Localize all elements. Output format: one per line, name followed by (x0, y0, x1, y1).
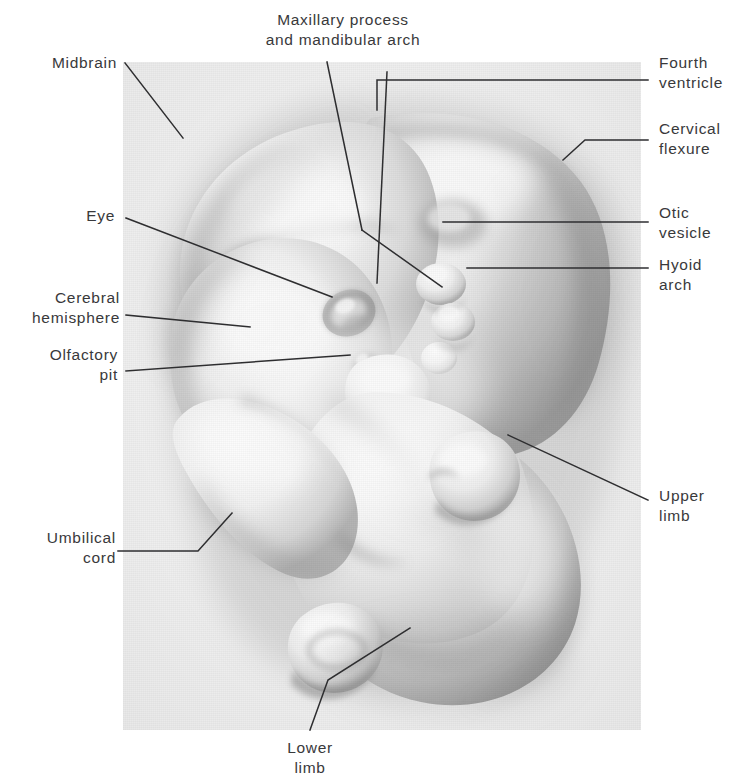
label-cerebral-hemisphere: Cerebral hemisphere (0, 288, 120, 328)
anatomy-figure: Maxillary process and mandibular arch Mi… (0, 0, 736, 783)
label-maxillary-process: Maxillary process and mandibular arch (223, 10, 463, 50)
embryo-photograph (123, 62, 641, 730)
label-fourth-ventricle: Fourth ventricle (659, 53, 736, 93)
label-hyoid-arch: Hyoid arch (659, 255, 736, 295)
embryo-illustration (123, 62, 641, 730)
label-eye: Eye (5, 206, 115, 226)
otic-vesicle-structure (419, 200, 487, 248)
label-otic-vesicle: Otic vesicle (659, 203, 736, 243)
label-olfactory-pit: Olfactory pit (0, 345, 118, 385)
label-lower-limb: Lower limb (250, 738, 370, 778)
label-umbilical-cord: Umbilical cord (0, 528, 116, 568)
label-upper-limb: Upper limb (659, 486, 736, 526)
label-midbrain: Midbrain (0, 53, 117, 73)
label-cervical-flexure: Cervical flexure (659, 119, 736, 159)
